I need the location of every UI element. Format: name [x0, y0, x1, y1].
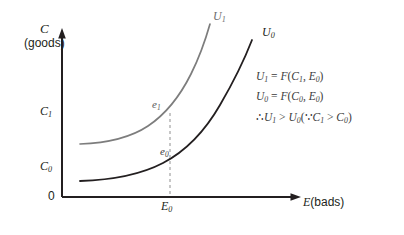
eq2-arg1-symbol: C — [291, 90, 299, 102]
curve-label-u0: U0 — [262, 26, 275, 41]
eq1-equals: = — [268, 70, 280, 82]
eq1-arg2-subscript: 0 — [316, 75, 320, 84]
point-label-e0-subscript: 0 — [165, 150, 169, 159]
y-tick-c0-subscript: 0 — [48, 165, 52, 174]
x-axis — [62, 193, 301, 201]
x-axis-unit: (bads) — [310, 195, 344, 209]
eq2-arg2-subscript: 0 — [316, 95, 320, 104]
y-axis — [58, 28, 66, 197]
equation-line-2: U0 = F(C0, E0) — [256, 90, 352, 104]
x-axis-title: E(bads) — [303, 196, 344, 209]
x-tick-e0: E0 — [161, 200, 172, 215]
eq3-gt-1: > — [276, 111, 288, 123]
y-tick-c1-symbol: C — [40, 104, 48, 118]
eq1-arg2-symbol: E — [309, 70, 316, 82]
indifference-curve-figure: C (goods) E(bads) 0 C1 C0 E0 U1 U0 e1 e0… — [0, 0, 404, 235]
x-tick-e0-subscript: 0 — [168, 205, 172, 214]
equation-line-3: ∴U1 > U0(∵C1 > C0) — [256, 110, 352, 125]
eq3-close-paren: ) — [348, 111, 352, 123]
equation-block: U1 = F(C1, E0) U0 = F(C0, E0) ∴U1 > U0(∵… — [256, 70, 352, 126]
y-tick-c1-subscript: 1 — [48, 110, 52, 119]
eq2-arg2-symbol: E — [309, 90, 316, 102]
eq3-d-symbol: C — [336, 111, 344, 123]
curve-label-u1: U1 — [213, 10, 226, 25]
y-axis-unit: (goods) — [24, 37, 65, 50]
because-symbol: ∵ — [305, 111, 313, 123]
curve-label-u1-subscript: 1 — [222, 15, 226, 24]
curve-label-u1-symbol: U — [213, 9, 222, 23]
eq2-function-name: F — [280, 90, 287, 102]
eq1-function-name: F — [280, 70, 287, 82]
y-tick-c0-symbol: C — [40, 159, 48, 173]
y-axis-symbol: C — [24, 22, 65, 36]
y-tick-c1: C1 — [40, 105, 52, 120]
equation-line-1: U1 = F(C1, E0) — [256, 70, 352, 84]
therefore-symbol: ∴ — [256, 111, 264, 123]
eq1-arg1-symbol: C — [291, 70, 299, 82]
eq3-gt-2: > — [324, 111, 336, 123]
origin-label: 0 — [48, 190, 55, 203]
curve-label-u0-symbol: U — [262, 25, 271, 39]
point-label-e0: e0 — [160, 146, 169, 159]
point-label-e1: e1 — [152, 99, 161, 112]
point-label-e1-subscript: 1 — [157, 103, 161, 112]
curve-u1 — [80, 24, 210, 144]
y-axis-title: C (goods) — [24, 22, 65, 49]
y-tick-c0: C0 — [40, 160, 52, 175]
curve-label-u0-subscript: 0 — [271, 31, 275, 40]
eq3-b-symbol: U — [288, 111, 296, 123]
eq2-equals: = — [268, 90, 280, 102]
